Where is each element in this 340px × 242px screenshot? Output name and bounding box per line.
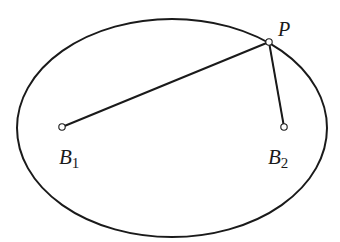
point-p	[266, 39, 272, 45]
label-p: P	[277, 18, 290, 40]
ellipse-diagram: P B1 B2	[0, 0, 340, 242]
label-b2: B2	[268, 145, 288, 171]
point-b1	[59, 124, 65, 130]
point-b2	[281, 124, 287, 130]
label-b2-subscript: 2	[281, 155, 289, 171]
label-b1-subscript: 1	[72, 155, 80, 171]
label-b1-main: B	[59, 145, 72, 169]
label-b1: B1	[59, 145, 79, 171]
label-b2-main: B	[268, 145, 281, 169]
segment-p-b2	[269, 42, 284, 127]
segment-b1-p	[62, 42, 269, 127]
